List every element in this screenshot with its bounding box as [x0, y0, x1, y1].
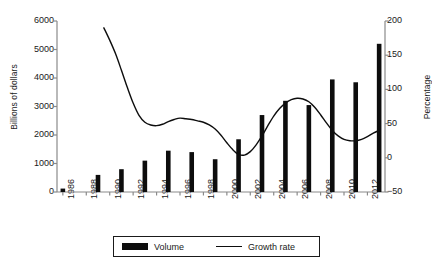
volume-bar	[236, 139, 241, 192]
volume-bar	[143, 161, 148, 192]
legend-label-volume: Volume	[154, 242, 184, 252]
legend-item-growth-rate: Growth rate	[216, 237, 295, 256]
volume-bar	[119, 169, 124, 192]
plot-area	[0, 0, 432, 267]
legend-item-volume: Volume	[122, 237, 184, 256]
volume-bar	[307, 105, 312, 192]
chart-figure: Billions of dollars Percentage 600050004…	[0, 0, 432, 267]
chart-legend: Volume Growth rate	[113, 236, 320, 257]
volume-bar	[283, 101, 288, 192]
legend-label-growth-rate: Growth rate	[248, 242, 295, 252]
line-swatch-icon	[216, 246, 242, 247]
volume-bars	[61, 44, 382, 192]
volume-bar	[166, 151, 171, 192]
volume-bar	[96, 175, 101, 192]
growth-rate-line	[104, 28, 379, 155]
growth-rate-path	[104, 28, 379, 155]
bar-swatch-icon	[122, 243, 148, 250]
volume-bar	[377, 44, 382, 192]
volume-bar	[353, 82, 358, 192]
volume-bar	[213, 159, 218, 192]
volume-bar	[61, 189, 66, 192]
volume-bar	[189, 152, 194, 192]
volume-bar	[260, 115, 265, 192]
volume-bar	[330, 79, 335, 192]
axis-lines	[54, 21, 389, 196]
